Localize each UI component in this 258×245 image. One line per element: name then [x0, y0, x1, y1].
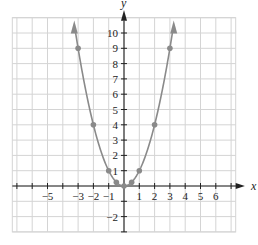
data-point [106, 168, 112, 174]
data-point [75, 46, 81, 52]
x-tick-label: −3 [72, 190, 84, 202]
x-tick-label: 5 [198, 190, 204, 202]
x-tick-label: 4 [182, 190, 188, 202]
x-tick-label: 3 [167, 190, 173, 202]
parabola-chart: xy −5−3−2−1123456−212345678910 [0, 0, 258, 245]
data-point [91, 122, 97, 128]
y-tick-label: 10 [107, 27, 119, 39]
y-axis-label: y [120, 0, 127, 10]
data-point [167, 46, 173, 52]
curve-arrow-right-icon [170, 21, 177, 34]
x-tick-label: −2 [88, 190, 100, 202]
y-tick-label: 6 [113, 88, 119, 100]
data-point [121, 183, 127, 189]
x-axis-arrow-icon [236, 183, 245, 189]
x-tick-label: 1 [137, 190, 143, 202]
data-point [137, 168, 143, 174]
y-axis-arrow-icon [121, 10, 127, 21]
y-tick-label: 5 [113, 104, 119, 116]
x-tick-label: 6 [213, 190, 219, 202]
y-tick-label: 8 [113, 58, 119, 70]
x-axis-label: x [250, 179, 257, 193]
data-point [129, 179, 135, 185]
y-tick-label: 7 [113, 73, 119, 85]
x-tick-label: −5 [42, 190, 54, 202]
curve-arrow-left-icon [71, 21, 78, 34]
y-tick-label: 1 [113, 165, 119, 177]
y-tick-label: −2 [106, 211, 118, 223]
y-tick-label: 9 [113, 42, 119, 54]
y-tick-label: 4 [113, 119, 119, 131]
x-tick-label: 2 [152, 190, 158, 202]
data-point [152, 122, 158, 128]
data-point [114, 179, 120, 185]
y-tick-label: 3 [113, 134, 119, 146]
x-tick-label: −1 [103, 190, 115, 202]
y-tick-label: 2 [113, 149, 119, 161]
